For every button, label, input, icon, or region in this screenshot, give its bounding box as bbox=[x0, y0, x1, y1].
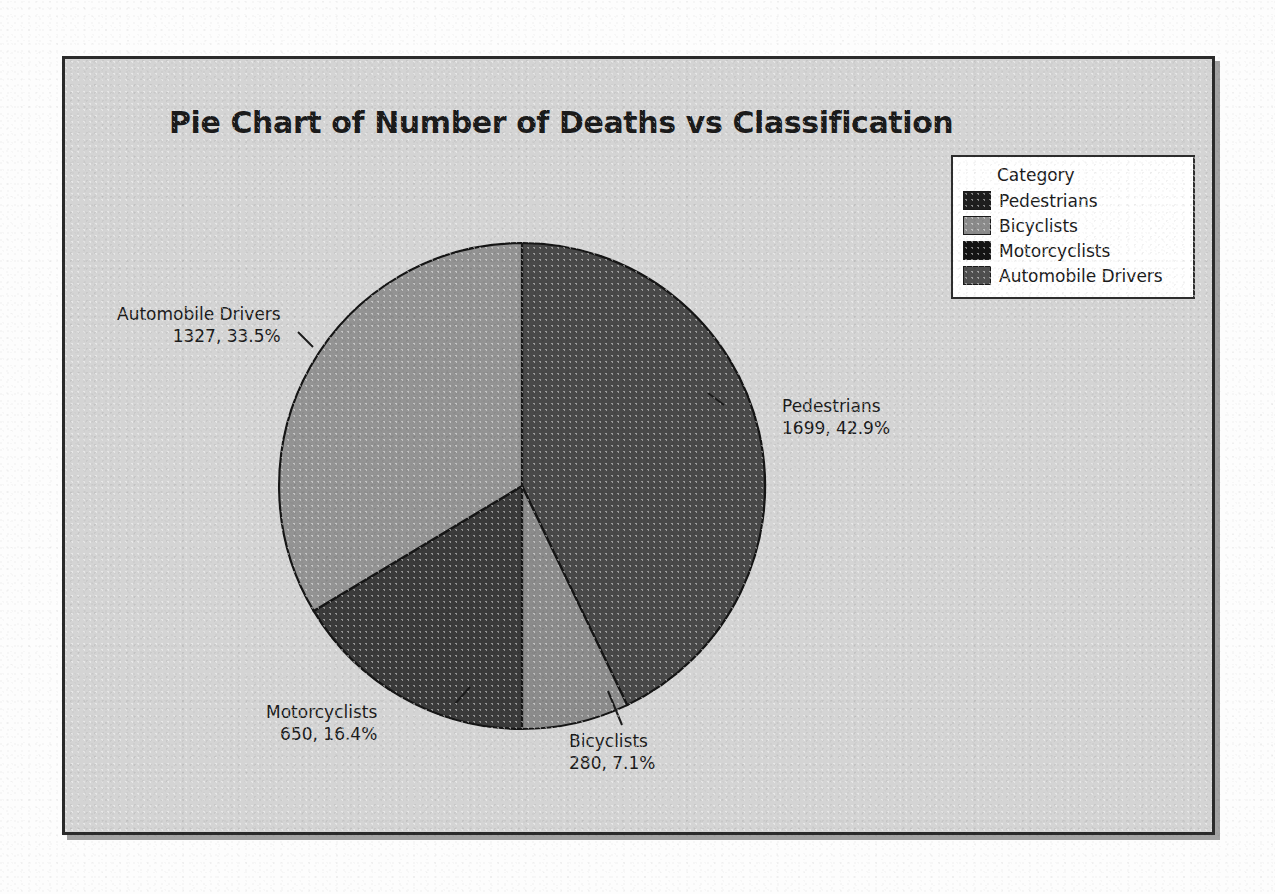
legend-label-motorcyclists: Motorcyclists bbox=[999, 241, 1110, 261]
slice-label-automobile-drivers: Automobile Drivers 1327, 33.5% bbox=[117, 304, 281, 348]
legend-swatch-motorcyclists bbox=[963, 241, 991, 260]
slice-label-pedestrians-name: Pedestrians bbox=[782, 396, 881, 416]
legend-label-bicyclists: Bicyclists bbox=[999, 216, 1078, 236]
legend-label-pedestrians: Pedestrians bbox=[999, 191, 1098, 211]
slice-label-pedestrians: Pedestrians 1699, 42.9% bbox=[782, 396, 890, 440]
legend: Category Pedestrians Bicyclists Motorcyc… bbox=[951, 155, 1195, 299]
chart-title: Pie Chart of Number of Deaths vs Classif… bbox=[169, 105, 953, 140]
slice-label-bicyclists: Bicyclists 280, 7.1% bbox=[569, 731, 655, 775]
scanned-page-background: WORK Pie Chart of Number of Deaths vs Cl… bbox=[0, 0, 1275, 894]
legend-item-pedestrians[interactable]: Pedestrians bbox=[963, 188, 1183, 213]
slice-label-automobile-drivers-name: Automobile Drivers bbox=[117, 304, 281, 324]
chart-frame: Pie Chart of Number of Deaths vs Classif… bbox=[62, 56, 1215, 835]
legend-title: Category bbox=[997, 165, 1183, 185]
leader-line-pedestrians bbox=[708, 393, 724, 405]
pie-slice-automobile-drivers bbox=[279, 243, 522, 611]
slice-label-motorcyclists: Motorcyclists 650, 16.4% bbox=[266, 702, 377, 746]
legend-label-automobile-drivers: Automobile Drivers bbox=[999, 266, 1163, 286]
slice-label-pedestrians-value: 1699, 42.9% bbox=[782, 418, 890, 440]
legend-swatch-pedestrians bbox=[963, 191, 991, 210]
legend-swatch-bicyclists bbox=[963, 216, 991, 235]
slice-label-motorcyclists-name: Motorcyclists bbox=[266, 702, 377, 722]
legend-item-bicyclists[interactable]: Bicyclists bbox=[963, 213, 1183, 238]
pie-slice-bicyclists bbox=[522, 486, 627, 729]
leader-line-bicyclists bbox=[608, 691, 622, 725]
pie-slice-pedestrians bbox=[522, 243, 765, 705]
legend-item-motorcyclists[interactable]: Motorcyclists bbox=[963, 238, 1183, 263]
leader-line-motorcyclists bbox=[455, 687, 470, 704]
leader-line-automobile bbox=[298, 332, 313, 347]
legend-swatch-automobile-drivers bbox=[963, 266, 991, 285]
slice-label-bicyclists-value: 280, 7.1% bbox=[569, 753, 655, 775]
slice-label-bicyclists-name: Bicyclists bbox=[569, 731, 648, 751]
pie-slice-motorcyclists bbox=[314, 486, 522, 729]
slice-label-motorcyclists-value: 650, 16.4% bbox=[266, 724, 377, 746]
legend-item-automobile-drivers[interactable]: Automobile Drivers bbox=[963, 263, 1183, 288]
leader-lines bbox=[298, 332, 724, 725]
slice-label-automobile-drivers-value: 1327, 33.5% bbox=[117, 326, 281, 348]
